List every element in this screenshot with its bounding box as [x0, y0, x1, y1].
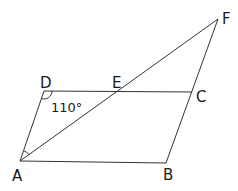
- angle-arc-a: [24, 151, 29, 155]
- point-label-b: B: [163, 166, 173, 184]
- point-label-e: E: [112, 74, 121, 92]
- segment-ad: [20, 91, 44, 161]
- point-label-a: A: [12, 167, 23, 185]
- point-label-c: C: [196, 88, 206, 106]
- geometry-diagram: 110° A B C D E F: [0, 0, 238, 191]
- angle-label-d: 110°: [51, 100, 82, 115]
- point-label-d: D: [40, 74, 52, 92]
- point-label-f: F: [222, 10, 231, 28]
- segment-ab: [20, 161, 166, 163]
- segment-bf: [166, 19, 218, 163]
